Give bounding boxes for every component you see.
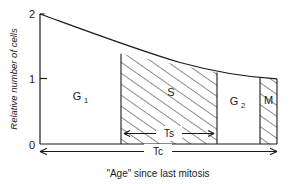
chart-canvas: 2 1 0 Relative number of cells G 1 S G 2…	[0, 0, 293, 184]
region-label-s: S	[167, 86, 174, 98]
region-label-g1-text: G	[73, 90, 82, 102]
x-axis-title: "Age" since last mitosis	[106, 168, 209, 179]
region-label-g2-sub: 2	[241, 101, 245, 110]
region-label-g2: G 2	[230, 95, 245, 110]
y-tick-label-1: 1	[29, 73, 35, 85]
region-label-m: M	[264, 94, 273, 106]
region-label-g1-sub: 1	[84, 96, 88, 105]
region-label-g1: G 1	[73, 90, 88, 105]
ts-label: Ts	[164, 128, 174, 139]
tc-span-annotation: Tc	[40, 144, 277, 159]
y-tick-label-0: 0	[29, 139, 35, 151]
tc-label: Tc	[153, 146, 163, 157]
figure-cell-age-distribution: 2 1 0 Relative number of cells G 1 S G 2…	[0, 0, 293, 184]
y-tick-label-2: 2	[29, 8, 35, 20]
y-axis-title: Relative number of cells	[8, 28, 19, 130]
region-label-g2-text: G	[230, 95, 239, 107]
